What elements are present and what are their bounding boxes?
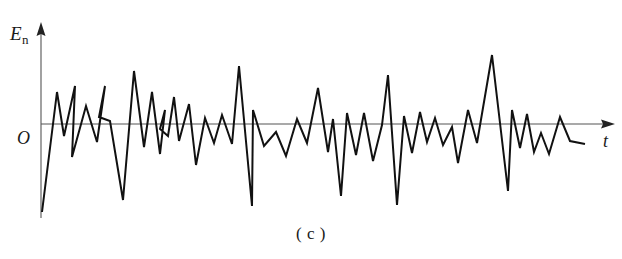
y-axis-arrow-icon — [37, 22, 46, 36]
x-axis-arrow-icon — [601, 120, 615, 129]
y-axis-label-subscript: n — [22, 32, 29, 47]
y-axis-label-main: E — [10, 23, 22, 44]
noise-waveform-figure: En O t ( c ) — [0, 0, 622, 259]
x-axis-label: t — [603, 132, 608, 150]
figure-caption: ( c ) — [0, 224, 622, 244]
noise-signal-trace — [42, 55, 585, 212]
plot-canvas — [0, 0, 622, 259]
y-axis-label: En — [10, 24, 29, 46]
origin-label: O — [17, 129, 30, 147]
